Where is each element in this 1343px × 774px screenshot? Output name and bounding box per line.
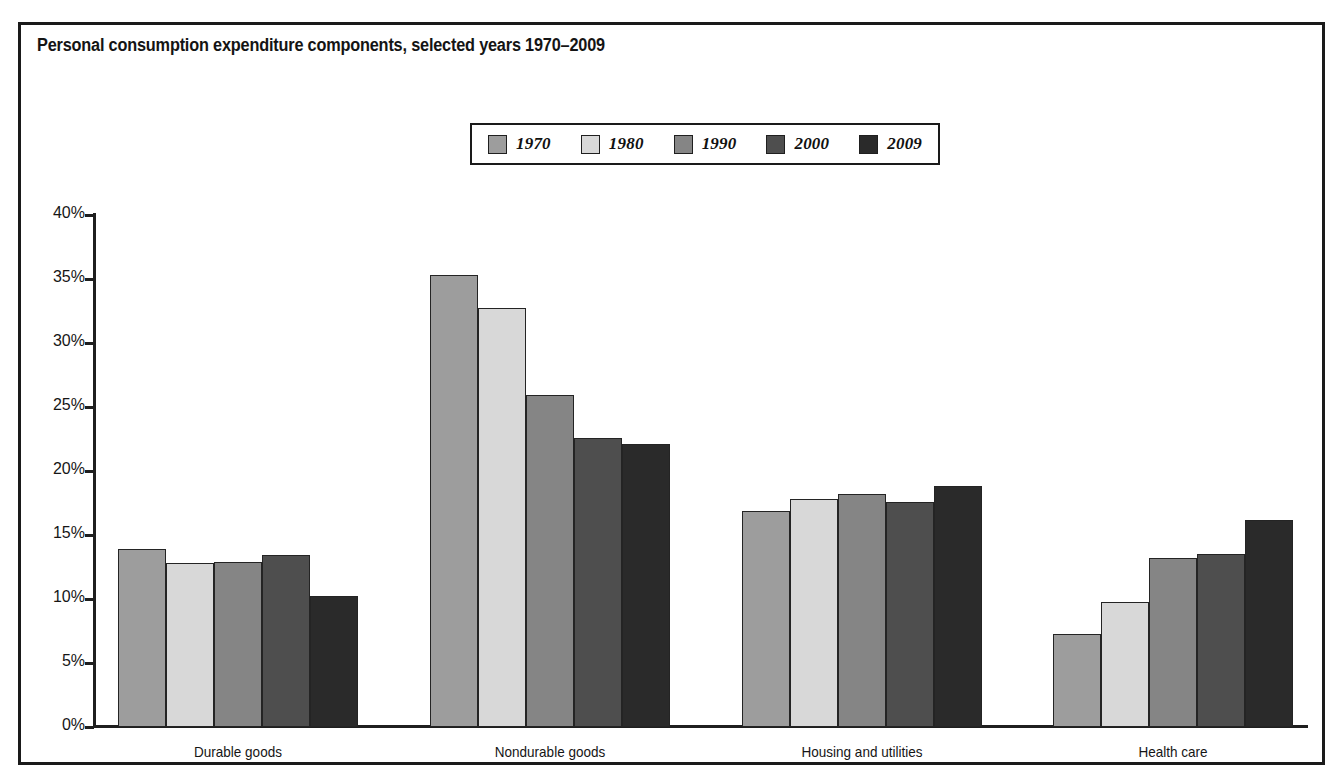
bar-2000-health-care[interactable] — [1197, 554, 1245, 727]
bar-1990-health-care[interactable] — [1149, 558, 1197, 727]
bar-2009-health-care[interactable] — [1245, 520, 1293, 727]
y-tick-label: 30% — [53, 332, 85, 350]
bar-1990-nondurable-goods[interactable] — [526, 395, 574, 727]
y-tick-mark — [85, 278, 94, 281]
bar-1980-nondurable-goods[interactable] — [478, 308, 526, 727]
y-tick-mark — [85, 726, 94, 729]
bar-1970-nondurable-goods[interactable] — [430, 275, 478, 727]
bar-1980-housing-and-utilities[interactable] — [790, 499, 838, 727]
y-tick-label: 35% — [53, 268, 85, 286]
bar-1990-housing-and-utilities[interactable] — [838, 494, 886, 727]
category-label-durable-goods: Durable goods — [130, 743, 346, 760]
y-tick-mark — [85, 662, 94, 665]
y-tick-mark — [85, 406, 94, 409]
y-tick-mark — [85, 534, 94, 537]
y-tick-label: 15% — [53, 524, 85, 542]
y-tick-label: 10% — [53, 588, 85, 606]
bar-1990-durable-goods[interactable] — [214, 562, 262, 727]
y-tick-mark — [85, 214, 94, 217]
bar-1970-housing-and-utilities[interactable] — [742, 511, 790, 727]
y-tick-label: 0% — [62, 716, 85, 734]
bar-1980-health-care[interactable] — [1101, 602, 1149, 727]
y-tick-mark — [85, 342, 94, 345]
plot-area: 0%5%10%15%20%25%30%35%40% Durable goodsN… — [21, 25, 1322, 762]
category-label-nondurable-goods: Nondurable goods — [442, 743, 658, 760]
category-label-housing-and-utilities: Housing and utilities — [754, 743, 970, 760]
y-tick-label: 40% — [53, 204, 85, 222]
bar-1980-durable-goods[interactable] — [166, 563, 214, 727]
y-tick-label: 25% — [53, 396, 85, 414]
y-tick-label: 20% — [53, 460, 85, 478]
bar-2009-durable-goods[interactable] — [310, 596, 358, 727]
y-tick-mark — [85, 598, 94, 601]
bar-2000-durable-goods[interactable] — [262, 555, 310, 727]
category-label-health-care: Health care — [1065, 743, 1281, 760]
bar-2000-housing-and-utilities[interactable] — [886, 502, 934, 727]
bar-1970-durable-goods[interactable] — [118, 549, 166, 727]
bar-2000-nondurable-goods[interactable] — [574, 438, 622, 727]
chart-frame: Personal consumption expenditure compone… — [18, 22, 1325, 765]
bar-2009-nondurable-goods[interactable] — [622, 444, 670, 727]
y-tick-mark — [85, 470, 94, 473]
y-tick-label: 5% — [62, 652, 85, 670]
bar-1970-health-care[interactable] — [1053, 634, 1101, 727]
bar-2009-housing-and-utilities[interactable] — [934, 486, 982, 727]
